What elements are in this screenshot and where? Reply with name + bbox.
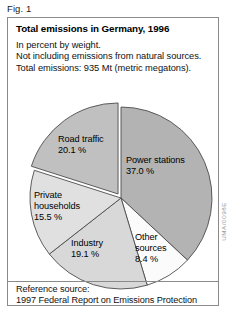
figure-root: Fig. 1 Total emissions in Germany, 1996 … (0, 0, 228, 313)
footer-divider (8, 281, 218, 282)
pie-chart-svg: Power stations37.0 %Othersources8.4 %Ind… (8, 18, 218, 305)
figure-panel: Total emissions in Germany, 1996 In perc… (7, 17, 219, 306)
chart-footer: Reference source: 1997 Federal Report on… (16, 284, 212, 306)
reference-source-value: 1997 Federal Report on Emissions Protect… (16, 295, 212, 306)
watermark-text: UMA/0098E (220, 202, 227, 241)
pie-chart: Power stations37.0 %Othersources8.4 %Ind… (8, 18, 218, 305)
figure-caption: Fig. 1 (7, 3, 31, 14)
reference-source-label: Reference source: (16, 284, 212, 295)
pie-label-industry: Industry19.1 % (71, 238, 103, 259)
